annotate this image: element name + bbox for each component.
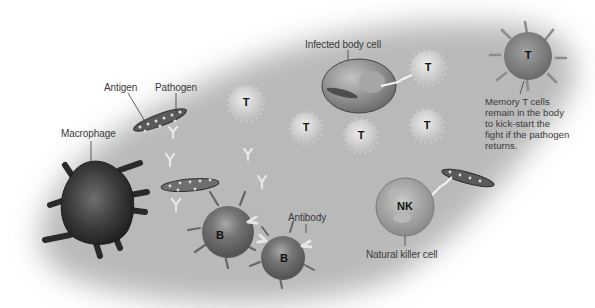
- nk-cell-letter: NK: [392, 200, 418, 212]
- label-infected-body-cell: Infected body cell: [305, 39, 381, 50]
- label-macrophage: Macrophage: [61, 128, 116, 139]
- memory-t-cells-note: Memory T cells remain in the body to kic…: [485, 96, 595, 151]
- label-antigen: Antigen: [104, 82, 137, 93]
- background-field: [39, 22, 575, 304]
- t-cell-attacking-letter: T: [422, 61, 434, 73]
- t-cell-3-letter: T: [355, 129, 367, 141]
- label-natural-killer-cell: Natural killer cell: [366, 249, 437, 260]
- immune-response-diagram: Antigen Pathogen Macrophage Infected bod…: [0, 0, 595, 308]
- t-cell-4-letter: T: [421, 119, 433, 131]
- t-cell-1-letter: T: [240, 96, 252, 108]
- diagram-artwork: [0, 0, 595, 308]
- b-cell-1-letter: B: [214, 229, 226, 241]
- t-cell-2-letter: T: [300, 121, 312, 133]
- b-cell-2-letter: B: [278, 252, 290, 264]
- label-pathogen: Pathogen: [155, 82, 197, 93]
- label-antibody: Antibody: [288, 212, 326, 223]
- memory-t-cell-letter: T: [522, 49, 534, 61]
